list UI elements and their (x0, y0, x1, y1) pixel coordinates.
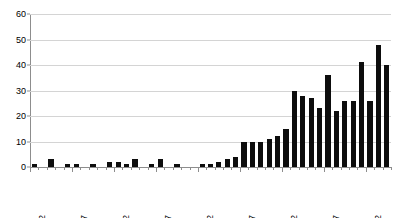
x-axis-labels: 197219771982198719921997200220072012 (30, 173, 391, 218)
bar (258, 142, 263, 168)
x-tick-mark (173, 167, 174, 170)
x-tick-mark (357, 167, 358, 170)
y-tick-label: 0 (21, 163, 26, 172)
x-tick-mark (38, 167, 39, 170)
x-tick-mark (299, 167, 300, 170)
x-tick-mark (307, 167, 308, 170)
bar (384, 65, 389, 167)
bar (334, 111, 339, 167)
bar (132, 159, 137, 167)
x-tick-mark (190, 167, 191, 170)
x-tick-mark (106, 167, 107, 170)
x-tick-mark (131, 167, 132, 170)
bar (351, 101, 356, 167)
bar (267, 139, 272, 167)
x-tick-mark (64, 167, 65, 170)
x-tick-label: 2007 (332, 215, 341, 218)
bar (342, 101, 347, 167)
x-tick-mark (349, 167, 350, 170)
y-tick-label: 10 (16, 137, 26, 146)
x-tick-mark (72, 167, 73, 172)
bar (292, 91, 297, 168)
x-tick-mark (282, 167, 283, 172)
y-tick-label: 50 (16, 35, 26, 44)
x-tick-label: 1997 (248, 215, 257, 218)
x-tick-mark (248, 167, 249, 170)
bar (225, 159, 230, 167)
x-tick-mark (156, 167, 157, 172)
x-tick-mark (30, 167, 31, 172)
x-tick-mark (240, 167, 241, 172)
x-tick-mark (324, 167, 325, 172)
y-tick-label: 20 (16, 112, 26, 121)
x-tick-mark (206, 167, 207, 170)
bar (300, 96, 305, 167)
y-tick-label: 30 (16, 86, 26, 95)
x-tick-mark (341, 167, 342, 170)
x-tick-mark (164, 167, 165, 170)
bar (325, 75, 330, 167)
x-tick-mark (257, 167, 258, 170)
x-tick-mark (89, 167, 90, 170)
y-tick-label: 60 (16, 10, 26, 19)
x-tick-mark (315, 167, 316, 170)
x-tick-mark (231, 167, 232, 170)
bar-chart: 0102030405060 19721977198219871992199720… (0, 0, 406, 218)
x-tick-mark (273, 167, 274, 170)
x-tick-mark (97, 167, 98, 170)
x-tick-mark (265, 167, 266, 170)
x-tick-mark (366, 167, 367, 172)
x-tick-mark (223, 167, 224, 170)
bar (376, 45, 381, 167)
x-tick-label: 1992 (206, 215, 215, 218)
bar (367, 101, 372, 167)
x-tick-mark (383, 167, 384, 170)
bars-group (30, 14, 391, 167)
bar (48, 159, 53, 167)
bar (317, 108, 322, 167)
x-tick-mark (139, 167, 140, 170)
bar (275, 136, 280, 167)
x-tick-mark (290, 167, 291, 170)
x-tick-label: 2002 (290, 215, 299, 218)
x-tick-label: 2012 (374, 215, 383, 218)
bar (359, 62, 364, 167)
bar (241, 142, 246, 168)
bar (233, 157, 238, 167)
x-tick-mark (374, 167, 375, 170)
x-tick-mark (148, 167, 149, 170)
bar (309, 98, 314, 167)
x-tick-label: 1982 (122, 215, 131, 218)
x-tick-mark (391, 167, 392, 170)
x-tick-mark (332, 167, 333, 170)
x-tick-label: 1987 (164, 215, 173, 218)
x-tick-mark (181, 167, 182, 170)
x-tick-mark (80, 167, 81, 170)
x-tick-mark (55, 167, 56, 170)
y-tick-label: 40 (16, 61, 26, 70)
bar (158, 159, 163, 167)
x-tick-mark (215, 167, 216, 170)
x-tick-mark (47, 167, 48, 170)
x-tick-mark (198, 167, 199, 172)
x-tick-mark (122, 167, 123, 170)
x-tick-label: 1977 (80, 215, 89, 218)
plot-area: 0102030405060 (30, 14, 391, 167)
x-tick-label: 1972 (38, 215, 47, 218)
bar (283, 129, 288, 167)
bar (250, 142, 255, 168)
x-tick-mark (114, 167, 115, 172)
